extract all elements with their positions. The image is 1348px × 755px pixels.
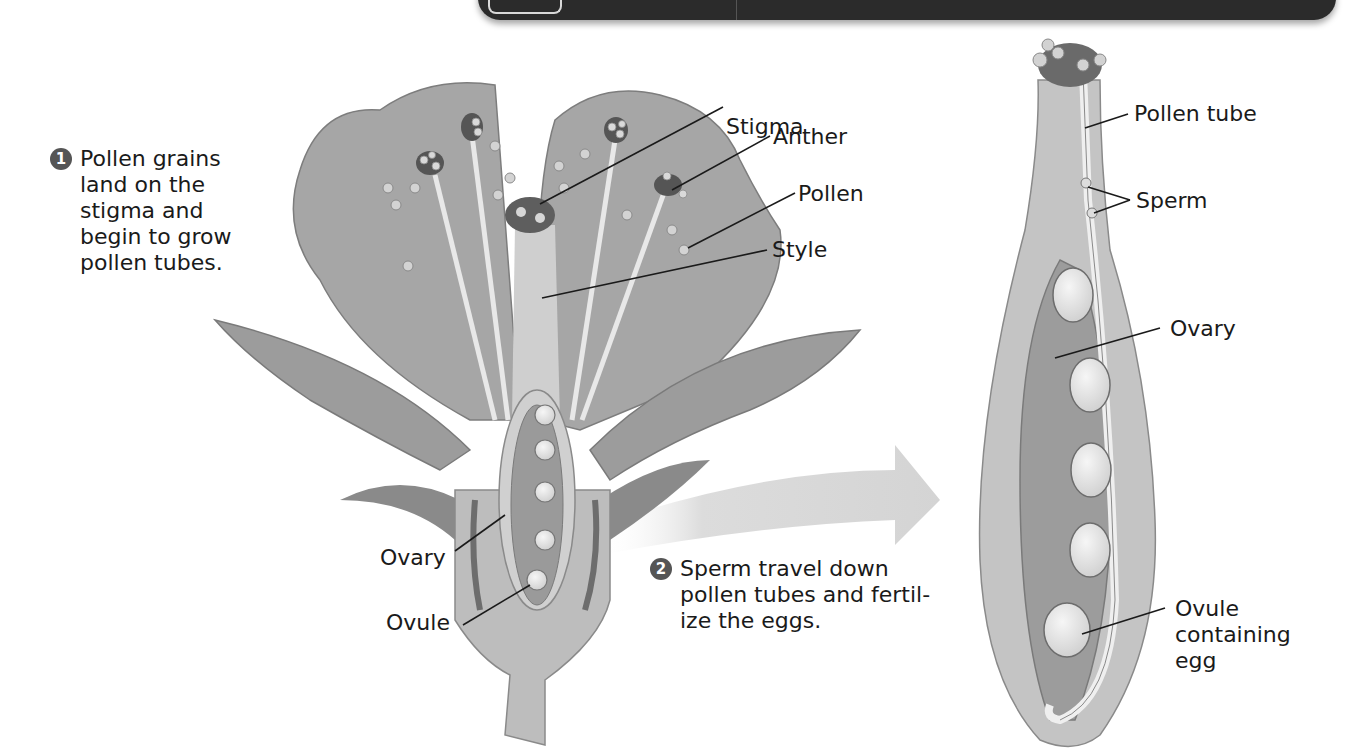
step-2-text: Sperm travel down pollen tubes and ferti… [680,556,980,634]
label-ovule-flower: Ovule [386,610,450,636]
label-ovary-pistil: Ovary [1170,316,1236,342]
label-anther: Anther [773,124,847,150]
step-2-caption: 2 Sperm travel down pollen tubes and fer… [650,556,980,634]
step-1-text: Pollen grains land on the stigma and beg… [80,146,300,276]
step-1-caption: 1 Pollen grains land on the stigma and b… [50,146,300,276]
label-ovary-flower: Ovary [380,545,446,571]
label-ovule-containing-egg: Ovule containing egg [1175,596,1291,674]
label-pollen-tube: Pollen tube [1134,101,1257,127]
flower-cross-section [215,83,860,745]
label-style: Style [772,237,827,263]
pistil-cross-section [980,39,1165,746]
step-number-badge: 1 [50,148,72,170]
label-sperm: Sperm [1136,188,1208,214]
label-pollen: Pollen [798,181,864,207]
step-number-badge: 2 [650,558,672,580]
